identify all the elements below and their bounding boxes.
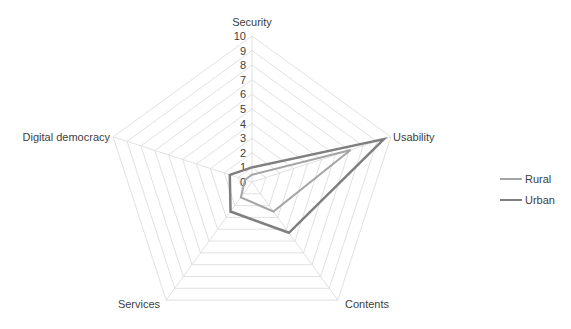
legend: Rural Urban xyxy=(500,168,555,210)
category-labels: SecurityUsabilityContentsServicesDigital… xyxy=(23,16,435,310)
category-label: Security xyxy=(232,16,272,28)
category-label: Digital democracy xyxy=(23,131,111,143)
rural-line-swatch-icon xyxy=(500,178,522,180)
urban-line-swatch-icon xyxy=(500,199,522,201)
tick-label: 7 xyxy=(240,74,246,86)
tick-label: 2 xyxy=(240,147,246,159)
legend-item-urban: Urban xyxy=(500,189,555,210)
axis-spoke xyxy=(252,137,391,182)
legend-item-rural: Rural xyxy=(500,168,555,189)
tick-label: 5 xyxy=(240,103,246,115)
tick-label: 3 xyxy=(240,132,246,144)
category-label: Contents xyxy=(345,298,390,310)
radar-chart: 012345678910 SecurityUsabilityContentsSe… xyxy=(0,0,571,329)
tick-label: 10 xyxy=(234,30,246,42)
category-label: Usability xyxy=(393,131,435,143)
legend-label-rural: Rural xyxy=(525,173,551,185)
tick-label: 9 xyxy=(240,45,246,57)
tick-label: 6 xyxy=(240,88,246,100)
category-label: Services xyxy=(118,298,161,310)
tick-label: 8 xyxy=(240,59,246,71)
legend-label-urban: Urban xyxy=(525,194,555,206)
tick-label: 4 xyxy=(240,118,246,130)
